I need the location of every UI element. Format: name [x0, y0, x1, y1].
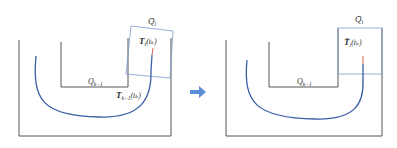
region-box	[126, 26, 173, 78]
trajectory-endpoint	[152, 48, 153, 55]
label-inner-region: Qk−1	[297, 77, 312, 87]
label-region-bar: Q̄i	[148, 16, 157, 27]
label-region-bar: Q̄i	[355, 14, 364, 25]
label-inner-region: Qk−1	[88, 77, 103, 87]
label-trajectory-bottom: Tk−1(tₖ)	[116, 90, 141, 101]
arrow-right-icon	[190, 86, 206, 98]
label-trajectory: T̄i(tₖ)	[344, 37, 362, 48]
region-box	[338, 28, 382, 74]
inner-wall	[269, 28, 338, 87]
inner-wall	[61, 38, 128, 87]
diagram-canvas: Q̄i Ti(tₖ) Qk−1 Tk−1(tₖ) Q̄i T̄i(tₖ) Qk−…	[0, 0, 397, 148]
label-trajectory-top: Ti(tₖ)	[139, 36, 157, 47]
trajectory-curve	[246, 60, 363, 119]
